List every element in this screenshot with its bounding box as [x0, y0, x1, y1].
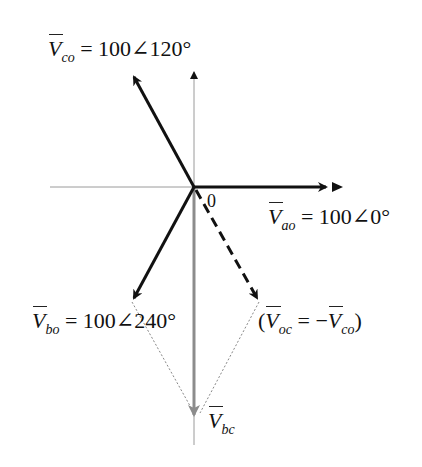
origin-label: 0	[207, 192, 216, 210]
label-vbo: Vbo = 100∠240°	[32, 310, 176, 332]
label-vao: Vao = 100∠0°	[268, 206, 390, 228]
axes	[50, 72, 194, 445]
phasor-voc	[196, 190, 257, 298]
phasor-vco	[134, 77, 194, 187]
phasor-diagram	[0, 0, 422, 467]
label-vbc: Vbc	[208, 410, 235, 432]
phasor-vbo	[134, 187, 194, 298]
phasor-vao	[194, 182, 343, 192]
label-vco: Vco = 100∠120°	[48, 38, 191, 60]
label-voc: (Voc = −Vco)	[258, 310, 362, 332]
